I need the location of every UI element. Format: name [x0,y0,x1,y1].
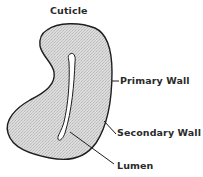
cuticle-label: Cuticle [50,5,88,16]
secondary-wall-leader-line [104,121,116,134]
primary-wall-label: Primary Wall [120,75,190,86]
secondary-wall-label: Secondary Wall [117,127,201,138]
lumen-label: Lumen [117,160,153,171]
fiber-cross-section-diagram: Cuticle Primary Wall Secondary Wall Lume… [0,0,203,177]
